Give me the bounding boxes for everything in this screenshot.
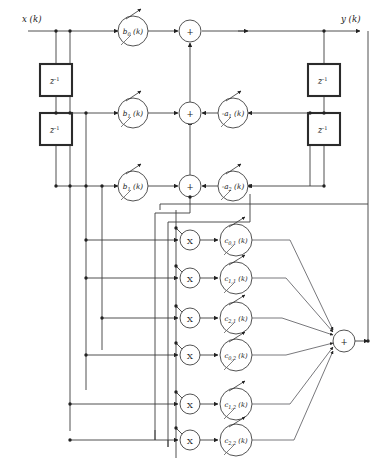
multiplier-x-6-symbol: X <box>187 436 193 446</box>
cross-stage-c21: X c2,1 (k) <box>100 295 333 335</box>
gain-b2-label: b1 (k) <box>123 182 143 192</box>
gain-c11-label: c1,1 (k) <box>224 275 248 284</box>
input-label: x (k) <box>22 14 42 24</box>
cross-stage-c22: X c2,2 (k) <box>68 351 333 456</box>
sum-top-symbol: + <box>186 27 193 37</box>
multiplier-x-4[interactable]: X <box>180 345 200 365</box>
gain-c11[interactable]: c1,1 (k) <box>220 255 252 294</box>
gain-c02[interactable]: c0,2 (k) <box>220 332 252 371</box>
multiplier-x-6[interactable]: X <box>180 430 200 450</box>
cross-stage-c11: X c1,1 (k) <box>84 255 333 332</box>
sum-mid-symbol: + <box>186 109 193 119</box>
gain-b0[interactable]: b0 (k) <box>118 9 148 46</box>
output-delay-1: z-1 <box>308 64 340 96</box>
multiplier-x-1-symbol: X <box>187 236 193 246</box>
input-delay-1: z-1 <box>40 64 72 96</box>
gain-b1-label: b1 (k) <box>123 109 143 119</box>
gain-c22[interactable]: c2,2 (k) <box>220 417 252 456</box>
output-tap-buses <box>310 31 324 186</box>
multiplier-x-1[interactable]: X <box>180 230 200 250</box>
sum-output-symbol: + <box>340 337 347 347</box>
multiplier-x-2[interactable]: X <box>180 268 200 288</box>
sum-output: + <box>333 330 355 352</box>
multiplier-x-5[interactable]: X <box>180 394 200 414</box>
cross-stage-c12: X c1,2 (k) <box>68 347 333 420</box>
multiplier-x-2-symbol: X <box>187 274 193 284</box>
gain-c01-label: c0,1 (k) <box>224 237 248 246</box>
sum-bottom: + <box>179 175 201 197</box>
gain-c02-label: c0,2 (k) <box>224 352 248 361</box>
cross-stage-c02: X c0,2 (k) <box>84 332 333 371</box>
gain-c21[interactable]: c2,1 (k) <box>220 295 252 334</box>
output-delay-2: z-1 <box>308 113 340 145</box>
sum-top: + <box>179 20 201 42</box>
multiplier-x-4-symbol: X <box>187 351 193 361</box>
gain-a1-label: -a1 (k) <box>222 109 245 119</box>
gain-c22-label: c2,2 (k) <box>224 437 248 446</box>
multiplier-x-5-symbol: X <box>187 400 193 410</box>
signal-flow-diagram: x (k) y (k) z-1 z-1 z-1 <box>0 0 380 473</box>
gain-b0-label: b0 (k) <box>123 27 143 37</box>
gain-c21-label: c2,1 (k) <box>224 315 248 324</box>
output-summer-return <box>355 204 370 343</box>
gain-a2[interactable]: -a2 (k) <box>218 164 248 201</box>
gain-a2-label: -a2 (k) <box>222 182 245 192</box>
multiplier-x-3[interactable]: X <box>180 308 200 328</box>
input-delay-2: z-1 <box>40 113 72 145</box>
sum-bottom-symbol: + <box>186 182 193 192</box>
gain-a1[interactable]: -a1 (k) <box>218 91 248 128</box>
gain-c12-label: c1,2 (k) <box>224 401 248 410</box>
gain-c12[interactable]: c1,2 (k) <box>220 381 252 420</box>
gain-b2[interactable]: b1 (k) <box>118 164 148 201</box>
cross-stage-c01: X c0,1 (k) <box>84 217 333 330</box>
sum-mid: + <box>179 102 201 124</box>
multiplier-x-3-symbol: X <box>187 314 193 324</box>
flow-graph-canvas: x (k) y (k) z-1 z-1 z-1 <box>0 0 380 473</box>
output-label: y (k) <box>340 14 361 24</box>
gain-c01[interactable]: c0,1 (k) <box>220 217 252 256</box>
gain-b1[interactable]: b1 (k) <box>118 91 148 128</box>
